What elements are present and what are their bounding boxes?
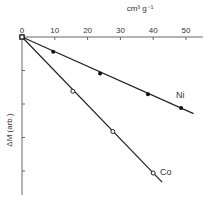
x-tick-label: 50 bbox=[182, 26, 191, 35]
y-axis-title: ΔM (arb.) bbox=[5, 113, 14, 147]
series-label-ni: Ni bbox=[176, 90, 185, 100]
x-tick-label: 40 bbox=[149, 26, 158, 35]
series-label-co: Co bbox=[160, 167, 172, 177]
x-tick-label: 20 bbox=[83, 26, 92, 35]
data-point-ni bbox=[51, 50, 55, 54]
data-point-co bbox=[71, 89, 75, 93]
chart: 01020304050 NiCo cm³ g⁻¹ ΔM (arb.) bbox=[0, 0, 214, 201]
data-point-ni bbox=[146, 92, 150, 96]
axes: 01020304050 bbox=[20, 26, 203, 195]
x-tick-label: 30 bbox=[116, 26, 125, 35]
x-axis-title: cm³ g⁻¹ bbox=[127, 4, 154, 13]
x-tick-label: 0 bbox=[20, 26, 25, 35]
series-line-ni bbox=[22, 37, 194, 114]
origin-marker bbox=[20, 35, 24, 39]
data-point-ni bbox=[98, 72, 102, 76]
data-point-ni bbox=[179, 106, 183, 110]
x-tick-label: 10 bbox=[50, 26, 59, 35]
data-point-co bbox=[111, 129, 115, 133]
data-point-co bbox=[151, 171, 155, 175]
series-group: NiCo bbox=[20, 35, 194, 182]
series-line-co bbox=[22, 37, 162, 182]
